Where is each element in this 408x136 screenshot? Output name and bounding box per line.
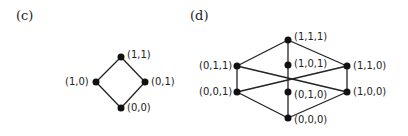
hasse-diagrams-figure: (c) (d) (1,1)(1,0)(0,1)(0,0)(1,1,1)(0,1,… <box>0 0 408 136</box>
node-label: (1,1,0) <box>353 60 386 71</box>
node-label: (1,1) <box>127 49 151 60</box>
node-label: (0,1) <box>151 76 175 87</box>
node-label: (1,0,0) <box>353 86 386 97</box>
node-label: (0,1,1) <box>199 60 232 71</box>
node <box>118 105 125 112</box>
node <box>234 89 241 96</box>
node <box>285 89 292 96</box>
node <box>285 37 292 44</box>
node <box>285 62 292 69</box>
edge <box>237 40 288 66</box>
node-label: (0,1,0) <box>294 89 327 100</box>
node <box>234 63 241 70</box>
node <box>93 79 100 86</box>
node <box>118 54 125 61</box>
edge <box>237 92 288 118</box>
node <box>142 79 149 86</box>
node <box>344 89 351 96</box>
node <box>344 63 351 70</box>
node <box>285 115 292 122</box>
node-label: (0,0,1) <box>199 86 232 97</box>
node-label: (1,1,1) <box>294 31 327 42</box>
node-label: (1,0) <box>65 76 89 87</box>
node-label: (1,0,1) <box>294 58 327 69</box>
node-label: (0,0,0) <box>294 114 327 125</box>
edge <box>96 82 121 108</box>
edge <box>121 57 145 82</box>
edge <box>96 57 121 82</box>
node-label: (0,0) <box>127 102 151 113</box>
